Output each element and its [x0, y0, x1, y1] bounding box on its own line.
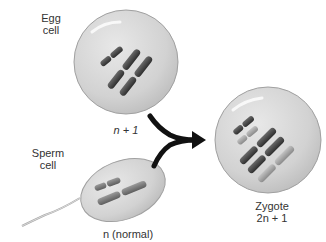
egg-ploidy-label: n + 1: [106, 124, 146, 136]
zygote-cell: [215, 87, 321, 193]
egg-cell-label: Egg cell: [36, 12, 66, 36]
sperm-ploidy-label: n (normal): [96, 228, 160, 240]
zygote-label: Zygote 2n + 1: [248, 200, 296, 224]
egg-cell: [74, 10, 178, 114]
merge-arrow-icon: [150, 116, 206, 166]
sperm-cell-label: Sperm cell: [28, 147, 68, 171]
